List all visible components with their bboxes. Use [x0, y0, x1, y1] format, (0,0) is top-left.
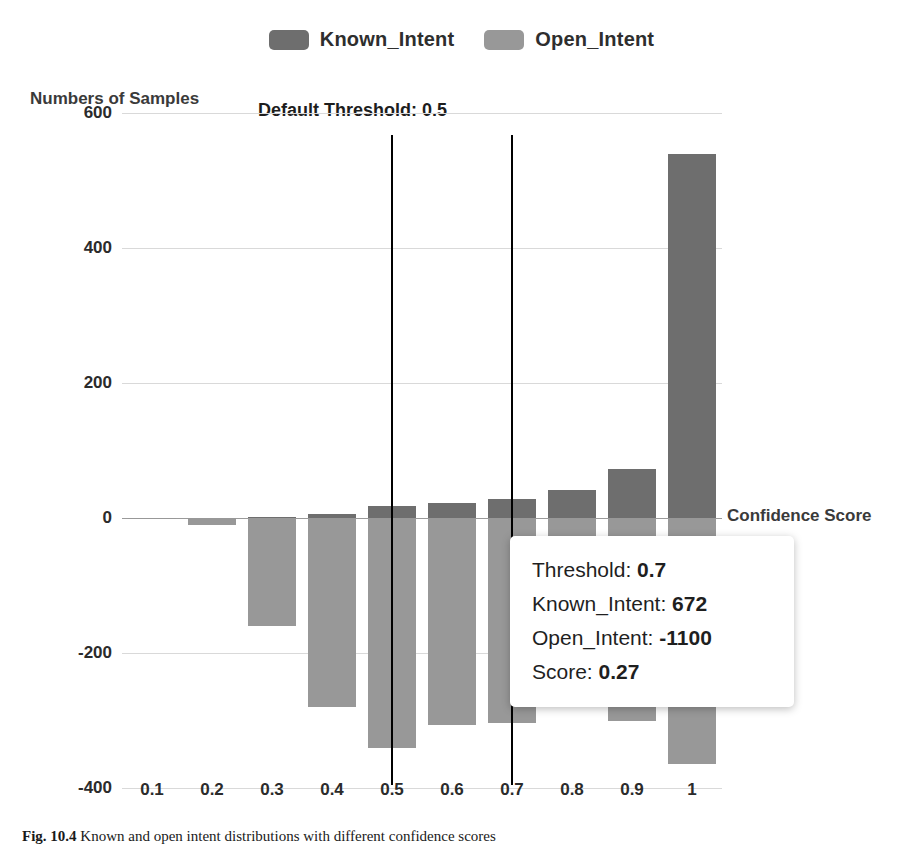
tooltip-value-score: 0.27 — [599, 660, 640, 683]
figure-caption-text: Known and open intent distributions with… — [80, 828, 495, 844]
tooltip-row-known-intent: Known_Intent: 672 — [532, 587, 774, 621]
gridline-400 — [122, 248, 722, 249]
bar-open-intent-0.6[interactable] — [428, 518, 476, 725]
gridline-200 — [122, 383, 722, 384]
x-tick-label-0.4: 0.4 — [320, 780, 344, 800]
tooltip-value-known-intent: 672 — [672, 592, 707, 615]
x-tick-label-0.2: 0.2 — [200, 780, 224, 800]
tooltip-key-score: Score: — [532, 660, 593, 683]
bar-known-intent-1[interactable] — [668, 154, 716, 519]
default-threshold-annotation: Default Threshold: 0.5 — [258, 100, 447, 121]
tooltip-key-open-intent: Open_Intent: — [532, 626, 653, 649]
bar-known-intent-0.8[interactable] — [548, 490, 596, 518]
figure-number: Fig. 10.4 — [22, 828, 77, 844]
bar-open-intent-0.1[interactable] — [128, 518, 176, 519]
bar-open-intent-0.4[interactable] — [308, 518, 356, 707]
tooltip-value-threshold: 0.7 — [637, 558, 666, 581]
threshold-line-0.5[interactable] — [391, 135, 393, 785]
y-tick-label-0: 0 — [0, 508, 112, 528]
tooltip-key-known-intent: Known_Intent: — [532, 592, 666, 615]
tooltip-row-threshold: Threshold: 0.7 — [532, 553, 774, 587]
tooltip-row-score: Score: 0.27 — [532, 655, 774, 689]
x-tick-label-0.7: 0.7 — [500, 780, 524, 800]
tooltip-key-threshold: Threshold: — [532, 558, 631, 581]
gridline-600 — [122, 113, 722, 114]
figure-caption: Fig. 10.4 Known and open intent distribu… — [22, 828, 902, 845]
y-tick-label-400: 400 — [0, 238, 112, 258]
x-tick-label-0.6: 0.6 — [440, 780, 464, 800]
bar-open-intent-0.2[interactable] — [188, 518, 236, 525]
x-tick-label-1: 1 — [687, 780, 696, 800]
x-axis-title: Confidence Score — [727, 506, 872, 526]
bar-chart-plot: Numbers of Samples Confidence Score Defa… — [0, 0, 923, 848]
y-tick-label--200: -200 — [0, 643, 112, 663]
tooltip-value-open-intent: -1100 — [659, 626, 712, 649]
y-tick-label-600: 600 — [0, 103, 112, 123]
tooltip-row-open-intent: Open_Intent: -1100 — [532, 621, 774, 655]
x-tick-label-0.8: 0.8 — [560, 780, 584, 800]
bar-known-intent-0.3[interactable] — [248, 517, 296, 518]
chart-tooltip: Threshold: 0.7 Known_Intent: 672 Open_In… — [510, 536, 794, 707]
x-tick-label-0.5: 0.5 — [380, 780, 404, 800]
x-tick-label-0.3: 0.3 — [260, 780, 284, 800]
bar-known-intent-0.6[interactable] — [428, 503, 476, 518]
bar-open-intent-0.3[interactable] — [248, 518, 296, 626]
bar-known-intent-0.9[interactable] — [608, 469, 656, 518]
y-tick-label-200: 200 — [0, 373, 112, 393]
y-tick-label--400: -400 — [0, 778, 112, 798]
x-tick-label-0.9: 0.9 — [620, 780, 644, 800]
bar-known-intent-0.4[interactable] — [308, 514, 356, 518]
x-tick-label-0.1: 0.1 — [140, 780, 164, 800]
